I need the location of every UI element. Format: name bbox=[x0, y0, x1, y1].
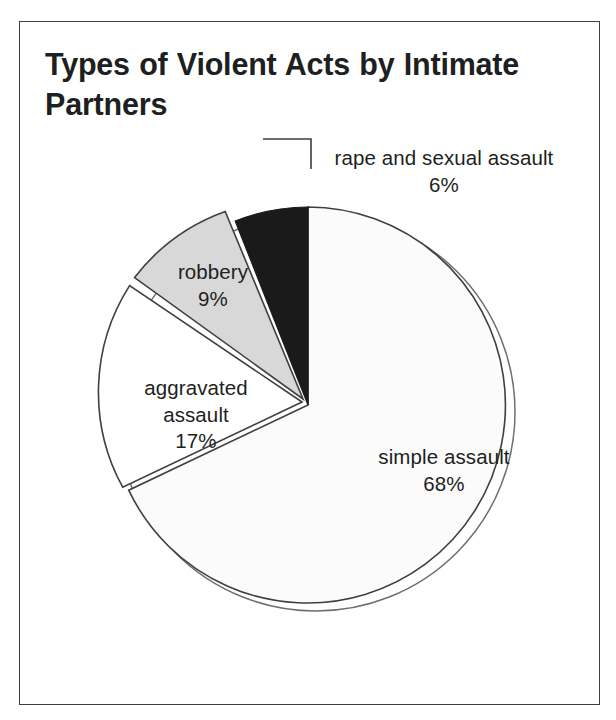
pie-chart-stage: simple assault 68% aggravated assault 17… bbox=[19, 21, 600, 705]
slice-label-aggravated-assault-pct: 17% bbox=[101, 428, 291, 455]
slice-label-rape-and-sexual-assault-name: rape and sexual assault bbox=[335, 146, 554, 169]
slice-label-aggravated-assault-name-1: aggravated bbox=[144, 376, 248, 399]
slice-label-robbery: robbery 9% bbox=[143, 259, 283, 312]
pie-chart-figure: Types of Violent Acts by Intimate Partne… bbox=[0, 0, 616, 720]
slice-label-simple-assault-pct: 68% bbox=[349, 471, 539, 498]
slice-label-aggravated-assault: aggravated assault 17% bbox=[101, 375, 291, 455]
slice-label-robbery-pct: 9% bbox=[143, 286, 283, 313]
callout-leader-line-rape bbox=[263, 139, 311, 169]
slice-label-rape-and-sexual-assault: rape and sexual assault 6% bbox=[319, 145, 569, 198]
slice-label-robbery-name: robbery bbox=[178, 260, 248, 283]
slice-label-aggravated-assault-name-2: assault bbox=[101, 402, 291, 429]
slice-label-simple-assault-name: simple assault bbox=[378, 445, 509, 468]
slice-label-rape-and-sexual-assault-pct: 6% bbox=[319, 172, 569, 199]
pie-chart-svg bbox=[19, 21, 600, 705]
slice-label-simple-assault: simple assault 68% bbox=[349, 444, 539, 497]
